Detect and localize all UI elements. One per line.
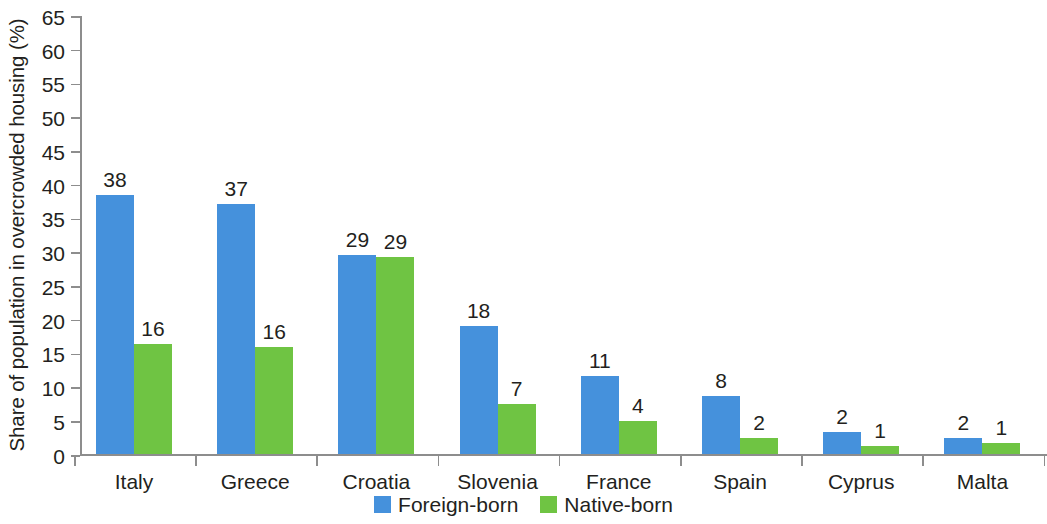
bar-spain-foreign-born: 8 — [702, 396, 740, 454]
bar-france-native-born: 4 — [619, 421, 657, 454]
bar-value-label: 29 — [346, 229, 369, 250]
x-axis-tick — [801, 455, 803, 466]
bar-value-label: 38 — [103, 169, 126, 190]
bar-greece-foreign-born: 37 — [217, 204, 255, 454]
y-axis-tick-label: 55 — [42, 74, 65, 95]
y-axis-tick-label: 60 — [42, 40, 65, 61]
bar-value-label: 1 — [874, 420, 886, 441]
bar-cyprus-foreign-born: 2 — [823, 432, 861, 454]
y-axis-tick: 25 — [71, 286, 80, 288]
bar-value-label: 18 — [467, 300, 490, 321]
category-label-malta: Malta — [924, 471, 1040, 492]
x-axis-tick — [559, 455, 561, 466]
bar-value-label: 2 — [958, 412, 970, 433]
bar-value-label: 8 — [715, 370, 727, 391]
x-axis-tick — [438, 455, 440, 466]
y-axis-title: Share of population in overcrowded housi… — [0, 0, 34, 470]
plot-area: 05101520253035404550556065 3816371629291… — [80, 16, 1047, 455]
bar-france-foreign-born: 11 — [581, 376, 619, 454]
y-axis-tick: 45 — [71, 151, 80, 153]
x-axis-tick — [680, 455, 682, 466]
legend-label: Native-born — [564, 494, 673, 515]
bar-slovenia-native-born: 7 — [498, 404, 536, 454]
y-axis-tick: 50 — [71, 117, 80, 119]
bar-malta-foreign-born: 2 — [944, 438, 982, 454]
x-axis-tick — [316, 455, 318, 466]
y-axis-tick: 35 — [71, 219, 80, 221]
x-axis-tick — [1044, 455, 1046, 466]
legend-item-native-born[interactable]: Native-born — [540, 494, 673, 515]
y-axis-tick-label: 20 — [42, 310, 65, 331]
bar-value-label: 29 — [384, 231, 407, 252]
y-axis-tick: 60 — [71, 50, 80, 52]
bar-cyprus-native-born: 1 — [861, 446, 899, 454]
bar-croatia-foreign-born: 29 — [338, 255, 376, 454]
category-label-cyprus: Cyprus — [803, 471, 919, 492]
bar-slovenia-foreign-born: 18 — [460, 326, 498, 454]
y-axis-tick: 65 — [71, 16, 80, 18]
y-axis-tick-label: 30 — [42, 243, 65, 264]
category-label-greece: Greece — [197, 471, 313, 492]
bar-value-label: 7 — [511, 378, 523, 399]
y-axis-line — [80, 16, 82, 455]
y-axis-tick-label: 40 — [42, 175, 65, 196]
overcrowded-housing-bar-chart: Share of population in overcrowded housi… — [0, 0, 1047, 524]
y-axis-tick-label: 50 — [42, 108, 65, 129]
x-axis-tick — [195, 455, 197, 466]
y-axis-tick: 15 — [71, 354, 80, 356]
bar-greece-native-born: 16 — [255, 347, 293, 454]
category-label-spain: Spain — [682, 471, 798, 492]
bar-value-label: 16 — [263, 321, 286, 342]
bar-value-label: 16 — [141, 318, 164, 339]
bar-value-label: 2 — [753, 412, 765, 433]
category-label-slovenia: Slovenia — [440, 471, 556, 492]
y-axis-tick-label: 45 — [42, 141, 65, 162]
category-label-croatia: Croatia — [318, 471, 434, 492]
legend-item-foreign-born[interactable]: Foreign-born — [374, 494, 518, 515]
y-axis-tick-label: 5 — [53, 411, 65, 432]
y-axis-tick-label: 65 — [42, 6, 65, 27]
y-axis-tick: 5 — [71, 421, 80, 423]
bar-italy-foreign-born: 38 — [96, 195, 134, 454]
bar-value-label: 1 — [996, 417, 1008, 438]
y-axis-tick-label: 15 — [42, 344, 65, 365]
x-axis-tick — [922, 455, 924, 466]
bar-value-label: 4 — [632, 395, 644, 416]
legend-swatch-icon — [374, 496, 391, 513]
bar-value-label: 11 — [589, 350, 611, 371]
y-axis-tick-label: 25 — [42, 276, 65, 297]
y-axis-tick: 10 — [71, 387, 80, 389]
legend-label: Foreign-born — [398, 494, 518, 515]
bar-value-label: 37 — [225, 178, 248, 199]
bar-malta-native-born: 1 — [982, 443, 1020, 454]
y-axis-tick: 55 — [71, 84, 80, 86]
y-axis-tick-label: 0 — [53, 445, 65, 466]
category-label-italy: Italy — [76, 471, 192, 492]
bar-croatia-native-born: 29 — [376, 257, 414, 454]
x-axis-tick — [74, 455, 76, 466]
y-axis-tick: 30 — [71, 252, 80, 254]
bar-spain-native-born: 2 — [740, 438, 778, 454]
y-axis-tick: 0 — [71, 455, 80, 457]
bar-value-label: 2 — [836, 406, 848, 427]
chart-legend: Foreign-bornNative-born — [0, 494, 1047, 515]
y-axis-tick-label: 10 — [42, 378, 65, 399]
category-label-france: France — [561, 471, 677, 492]
x-axis-line — [80, 454, 1047, 456]
legend-swatch-icon — [540, 496, 557, 513]
bar-italy-native-born: 16 — [134, 344, 172, 454]
y-axis-tick: 20 — [71, 320, 80, 322]
y-axis-tick-label: 35 — [42, 209, 65, 230]
y-axis-tick: 40 — [71, 185, 80, 187]
